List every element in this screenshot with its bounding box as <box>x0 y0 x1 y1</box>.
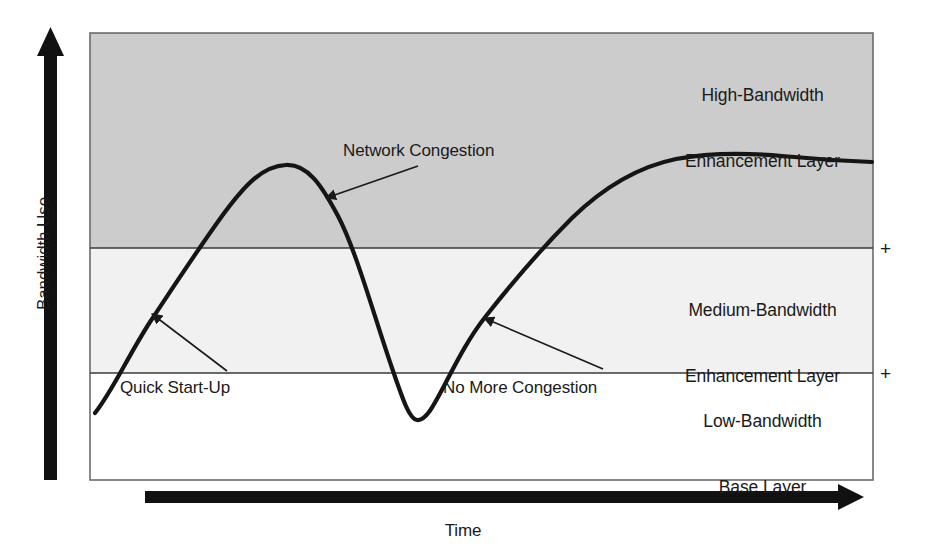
high-bandwidth-layer-line1: High-Bandwidth <box>655 84 870 106</box>
y-axis-title: Bandwidth Use <box>33 174 54 334</box>
x-axis-title: Time <box>0 520 926 541</box>
medium-bandwidth-layer-line1: Medium-Bandwidth <box>655 299 870 321</box>
network-congestion-annotation-label: Network Congestion <box>343 140 494 161</box>
high-bandwidth-layer-line2: Enhancement Layer <box>655 150 870 172</box>
low-bandwidth-layer-line1: Low-Bandwidth <box>655 410 870 432</box>
low-bandwidth-layer-label: Low-Bandwidth Base Layer <box>655 366 870 542</box>
bandwidth-layers-figure: High-Bandwidth Enhancement Layer Medium-… <box>0 0 926 557</box>
medium-threshold-plus-mark: + <box>880 239 891 258</box>
quick-start-up-annotation-label: Quick Start-Up <box>120 377 230 398</box>
low-threshold-plus-mark: + <box>880 364 891 383</box>
low-bandwidth-layer-line2: Base Layer <box>655 476 870 498</box>
high-bandwidth-layer-label: High-Bandwidth Enhancement Layer <box>655 40 870 216</box>
no-more-congestion-annotation-label: No More Congestion <box>443 377 597 398</box>
